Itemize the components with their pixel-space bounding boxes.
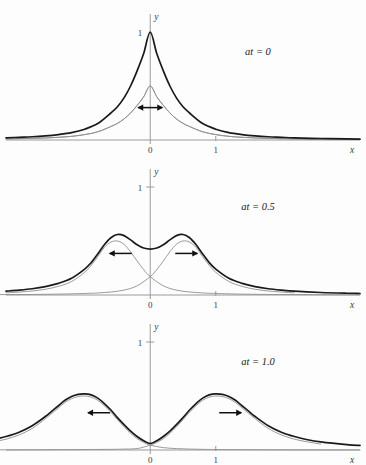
y-axis-label: y <box>153 12 159 22</box>
panel-at-0: 1y01xat = 0 <box>0 0 366 155</box>
case-label: at = 0.5 <box>241 201 275 212</box>
panel-plot-2: 1y01xat = 1.0 <box>0 310 366 465</box>
x-tick-label: 1 <box>214 300 219 310</box>
right-arrow-icon <box>219 410 242 416</box>
panel-plot-0: 1y01xat = 0 <box>0 0 366 155</box>
sum-curve <box>6 234 360 293</box>
y-tick-label: 1 <box>138 183 143 193</box>
x-tick-label: 1 <box>214 455 219 465</box>
case-label: at = 0 <box>245 46 272 57</box>
panel-at-1-0: 1y01xat = 1.0 <box>0 310 366 465</box>
sum-curve <box>0 394 360 446</box>
x-axis-label: x <box>349 300 355 310</box>
right-arrow-icon <box>175 250 198 256</box>
y-tick-label: 1 <box>138 338 143 348</box>
x-tick-label: 0 <box>148 300 153 310</box>
left-arrow-icon <box>109 250 132 256</box>
y-axis-label: y <box>153 322 159 332</box>
x-tick-label: 1 <box>214 145 219 155</box>
component-curve <box>6 241 360 295</box>
panel-at-0-5: 1y01xat = 0.5 <box>0 155 366 310</box>
case-label: at = 1.0 <box>241 356 275 367</box>
x-tick-label: 0 <box>148 145 153 155</box>
component-curve <box>6 86 360 140</box>
component-curve <box>6 86 360 140</box>
x-tick-label: 0 <box>148 455 153 465</box>
panel-plot-1: 1y01xat = 0.5 <box>0 155 366 310</box>
wave-packet-figure: 1y01xat = 0 1y01xat = 0.5 1y01xat = 1.0 <box>0 0 366 465</box>
x-axis-label: x <box>349 455 355 465</box>
x-axis-label: x <box>349 145 355 155</box>
left-arrow-icon <box>87 410 110 416</box>
y-axis-label: y <box>153 167 159 177</box>
y-tick-label: 1 <box>138 28 143 38</box>
component-curve <box>0 396 321 450</box>
